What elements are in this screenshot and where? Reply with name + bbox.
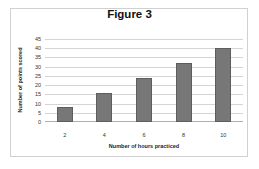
x-axis-label: Number of hours practiced [45, 143, 243, 149]
y-tick-label: 15 [21, 91, 41, 97]
gridline [45, 48, 243, 49]
y-tick-label: 20 [21, 82, 41, 88]
y-tick-label: 0 [21, 119, 41, 125]
y-tick-label: 40 [21, 45, 41, 51]
x-tick-label: 2 [55, 132, 75, 138]
bar [136, 78, 152, 122]
y-tick-label: 45 [21, 36, 41, 42]
y-tick-label: 30 [21, 64, 41, 70]
x-tick-label: 6 [134, 132, 154, 138]
bar [215, 48, 231, 122]
x-tick-label: 8 [174, 132, 194, 138]
bar [96, 93, 112, 123]
gridline [45, 39, 243, 40]
gridline [45, 76, 243, 77]
y-tick-label: 25 [21, 73, 41, 79]
x-tick-label: 10 [213, 132, 233, 138]
plot-area [45, 39, 243, 122]
chart-title: Figure 3 [0, 8, 259, 20]
bar [176, 63, 192, 122]
y-tick-label: 5 [21, 110, 41, 116]
gridline [45, 67, 243, 68]
y-tick-label: 35 [21, 54, 41, 60]
gridline [45, 57, 243, 58]
bar [57, 107, 73, 122]
x-tick-label: 4 [94, 132, 114, 138]
y-tick-label: 10 [21, 101, 41, 107]
